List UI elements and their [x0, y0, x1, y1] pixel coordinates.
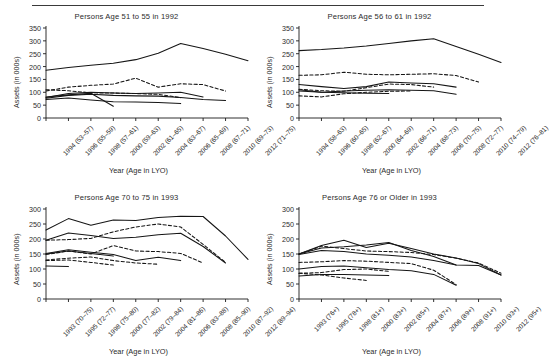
series-line — [46, 224, 226, 262]
y-tick-label: 300 — [282, 205, 294, 214]
y-tick-label: 50 — [33, 280, 41, 289]
y-tick-label: 150 — [29, 75, 41, 84]
series-line — [299, 39, 501, 63]
series-line — [299, 250, 456, 265]
series-line — [46, 266, 68, 267]
series-line — [46, 260, 113, 265]
y-tick-label: 50 — [286, 101, 294, 110]
series-line — [299, 82, 456, 88]
chart-panel-4: Persons Age 76 or Older in 1993 Assets (… — [253, 181, 506, 362]
y-tick-label: 150 — [282, 75, 294, 84]
y-tick-label: 250 — [29, 49, 41, 58]
y-tick-label: 200 — [282, 62, 294, 71]
y-tick-label: 300 — [29, 205, 41, 214]
y-tick-label: 0 — [290, 114, 294, 123]
chart-panel-2: Persons Age 56 to 61 in 1992 Assets (in … — [253, 0, 506, 181]
y-tick-label: 100 — [29, 88, 41, 97]
chart-panel-1: Persons Age 51 to 55 in 1992 Assets (in … — [0, 0, 253, 181]
series-line — [299, 72, 479, 82]
y-tick-label: 150 — [282, 250, 294, 259]
y-tick-label: 100 — [29, 265, 41, 274]
y-tick-label: 250 — [282, 220, 294, 229]
y-tick-label: 0 — [37, 114, 41, 123]
y-tick-label: 250 — [282, 49, 294, 58]
y-tick-label: 50 — [286, 280, 294, 289]
y-tick-label: 100 — [282, 88, 294, 97]
y-tick-label: 350 — [282, 24, 294, 33]
series-line — [46, 78, 226, 91]
y-tick-label: 250 — [29, 220, 41, 229]
y-tick-label: 50 — [33, 101, 41, 110]
y-tick-label: 100 — [282, 265, 294, 274]
series-line — [299, 269, 389, 273]
y-tick-label: 200 — [29, 235, 41, 244]
y-tick-label: 350 — [29, 24, 41, 33]
y-tick-label: 0 — [290, 295, 294, 304]
series-line — [299, 246, 501, 273]
y-tick-label: 200 — [29, 62, 41, 71]
series-line — [46, 216, 248, 259]
y-tick-label: 300 — [282, 36, 294, 45]
series-line — [46, 43, 248, 70]
series-line — [46, 98, 181, 104]
chart-panel-3: Persons Age 70 to 75 in 1993 Assets (in … — [0, 181, 253, 362]
series-line — [46, 233, 226, 263]
y-tick-label: 200 — [282, 235, 294, 244]
y-tick-label: 0 — [37, 295, 41, 304]
y-tick-label: 300 — [29, 36, 41, 45]
y-tick-label: 150 — [29, 250, 41, 259]
series-line — [46, 94, 226, 100]
